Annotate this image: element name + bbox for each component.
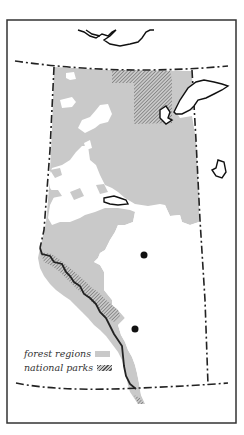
legend-item-parks: national parks: [24, 361, 112, 375]
latitude-60-line: [15, 61, 228, 70]
hatched-swatch-icon: [97, 365, 112, 371]
legend-item-forest: forest regions: [24, 347, 112, 361]
city-dot-calgary: [132, 326, 139, 333]
legend: forest regions national parks: [24, 347, 112, 375]
forest-swatch-icon: [95, 351, 110, 357]
legend-label-forest: forest regions: [24, 347, 91, 361]
city-dot-edmonton: [141, 252, 148, 259]
legend-label-parks: national parks: [24, 361, 93, 375]
east-lake: [212, 160, 226, 178]
